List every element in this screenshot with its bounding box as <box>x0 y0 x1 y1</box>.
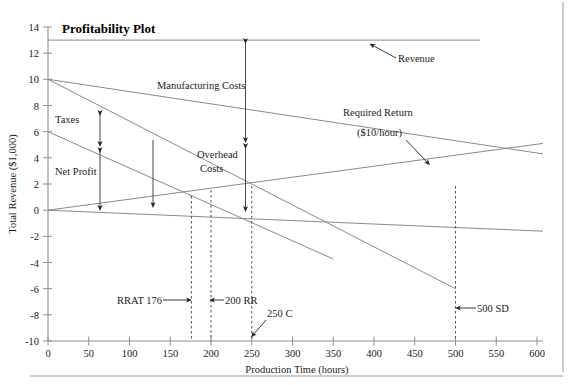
series-taxes-boundary <box>48 132 333 259</box>
annotation-200-rr: 200 RR <box>225 295 257 306</box>
annotation-overhead-costs-line1: Overhead <box>197 149 239 160</box>
annotation-revenue: Revenue <box>398 53 435 64</box>
x-tick-label: 100 <box>122 348 138 359</box>
x-axis-title: Production Time (hours) <box>245 364 349 376</box>
x-tick-label: 250 <box>244 348 260 359</box>
series-net-profit-baseline <box>48 210 543 231</box>
x-tick-label: 450 <box>407 348 423 359</box>
annotation-taxes: Taxes <box>55 114 79 125</box>
x-tick-label: 200 <box>203 348 219 359</box>
y-tick-label: 10 <box>29 74 40 85</box>
y-tick-label: 8 <box>34 101 39 112</box>
series-manufacturing-boundary <box>48 79 543 154</box>
y-tick-label: -4 <box>30 258 39 269</box>
y-tick-label: 0 <box>34 205 39 216</box>
x-tick-label: 500 <box>448 348 464 359</box>
annotation-overhead-costs-line2: Costs <box>200 163 223 174</box>
series-required-return <box>48 143 543 210</box>
y-tick-label: 4 <box>34 153 40 164</box>
y-tick-label: -8 <box>30 310 39 321</box>
leader-250-c <box>253 320 266 335</box>
annotation-required-return-rate: ($10/hour) <box>357 127 402 139</box>
x-tick-label: 400 <box>366 348 382 359</box>
annotation-500-sd: 500 SD <box>477 303 509 314</box>
leader-required-return <box>406 140 428 163</box>
y-tick-label: 12 <box>29 48 40 59</box>
x-tick-labels: 0 50 100 150 200 250 300 350 400 450 500… <box>45 348 545 359</box>
x-tick-label: 0 <box>45 348 50 359</box>
y-tick-label: -6 <box>30 284 39 295</box>
x-tick-label: 550 <box>488 348 504 359</box>
y-axis-title: Total Revenue ($1,000) <box>7 134 19 234</box>
annotation-required-return: Required Return <box>343 107 413 118</box>
y-tick-label: 14 <box>29 22 40 33</box>
y-tick-label: -2 <box>30 231 39 242</box>
annotation-250-c: 250 C <box>267 308 292 319</box>
y-tick-label: -10 <box>25 336 39 347</box>
annotation-net-profit: Net Profit <box>55 166 97 177</box>
x-tick-label: 300 <box>285 348 301 359</box>
x-tick-label: 350 <box>325 348 341 359</box>
x-tick-label: 50 <box>84 348 95 359</box>
y-tick-labels: 14 12 10 8 6 4 2 0 -2 -4 -6 -8 -10 <box>25 22 40 347</box>
leader-revenue <box>372 45 396 58</box>
annotation-manufacturing-costs: Manufacturing Costs <box>157 80 245 91</box>
x-tick-label: 150 <box>162 348 178 359</box>
y-tick-label: 6 <box>34 127 39 138</box>
profitability-plot-svg: 14 12 10 8 6 4 2 0 -2 -4 -6 -8 -10 0 50 … <box>0 0 568 385</box>
page-title: Profitability Plot <box>62 21 156 36</box>
chart-figure: 14 12 10 8 6 4 2 0 -2 -4 -6 -8 -10 0 50 … <box>0 0 568 385</box>
y-tick-label: 2 <box>34 179 39 190</box>
x-tick-label: 600 <box>529 348 545 359</box>
annotation-rrat-176: RRAT 176 <box>117 295 162 306</box>
